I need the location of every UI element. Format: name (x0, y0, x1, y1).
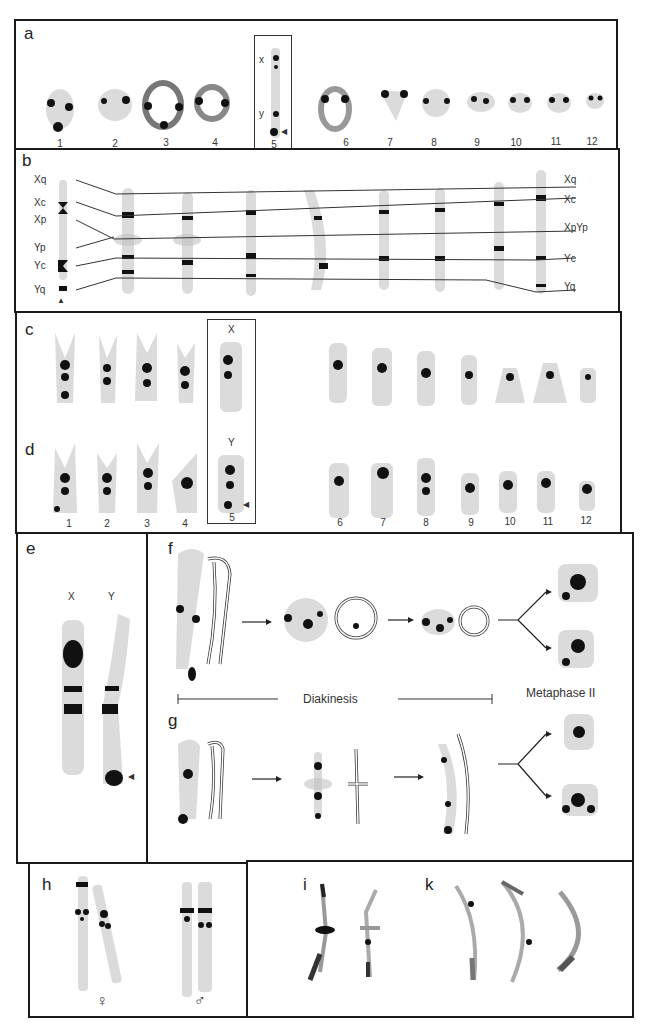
bivalent-ring-2 (98, 89, 132, 121)
chromosome-number-5: 5 (222, 512, 242, 523)
chromosome-number-8: 8 (424, 137, 444, 148)
xy-bivalent-inset-a: x y ◀ 5 (254, 35, 292, 152)
chromosome-number-3: 3 (137, 518, 157, 529)
xy-inset-cd: X Y ◀ 5 (207, 319, 256, 524)
bivalent-ring-9 (467, 92, 495, 112)
chromosome-number-11: 11 (546, 136, 566, 147)
panel-g-sequence (178, 714, 598, 834)
diakinesis-label: Diakinesis (303, 692, 358, 706)
pachytene-chromosomes (248, 862, 636, 1020)
inset-y-label: y (259, 108, 264, 119)
right-label-xpyp: XpYp (564, 222, 588, 233)
chromosome-number-8: 8 (416, 517, 436, 528)
arrowhead-icon: ▲ (57, 296, 65, 305)
left-label-xq: Xq (34, 174, 46, 185)
chromosome-number-1: 1 (59, 518, 79, 529)
panel-a-chromosome-rings (16, 21, 620, 152)
chromosome-number-4: 4 (205, 137, 225, 148)
right-label-xc: Xc (564, 194, 576, 205)
xy-pachytene-pair (18, 534, 150, 866)
panel-b: b (14, 148, 620, 313)
metaphase-chromosomes-d (53, 443, 595, 518)
chromosome-number-4: 4 (175, 518, 195, 529)
bivalent-ring-8 (422, 89, 450, 117)
panel-f-sequence (176, 549, 598, 681)
arrowhead-icon: ◀ (281, 127, 287, 136)
right-label-yc: Yc (564, 253, 576, 264)
chromosome-number-9: 9 (461, 517, 481, 528)
panel-fg: f g (146, 532, 634, 864)
bivalent-ring-4 (195, 87, 229, 119)
right-label-yq: Yq (564, 281, 575, 292)
panel-ik: i k (246, 860, 634, 1018)
chromosome-number-10: 10 (506, 137, 526, 148)
chromosome-number-12: 12 (576, 515, 596, 526)
chromosome-number-2: 2 (97, 518, 117, 529)
bivalent-ring-1 (46, 89, 74, 132)
inset-x-label: x (259, 54, 264, 65)
sex-chromosome-comparison (30, 864, 250, 1020)
chromosome-number-7: 7 (373, 517, 393, 528)
bivalent-ring-12 (586, 93, 604, 109)
left-label-yc: Yc (34, 260, 46, 271)
panel-cd: c d (15, 311, 622, 534)
left-label-yq: Yq (34, 284, 45, 295)
metaphase-chromosomes-c (55, 333, 596, 406)
chromosome-number-6: 6 (336, 137, 356, 148)
chromosome-number-10: 10 (500, 516, 520, 527)
chromosome-number-12: 12 (582, 136, 602, 147)
metaphase-ii-label: Metaphase II (526, 686, 595, 700)
left-label-yp: Yp (34, 242, 46, 253)
male-symbol: ♂ (194, 992, 206, 1010)
bivalent-ring-3 (144, 83, 183, 129)
panel-cd-karyotype (17, 313, 624, 536)
right-label-xq: Xq (564, 174, 576, 185)
panel-e: e X Y ◀ (16, 532, 148, 864)
chromosome-number-7: 7 (380, 137, 400, 148)
chromosome-number-3: 3 (156, 137, 176, 148)
meiosis-progression-diagram (148, 534, 636, 866)
panel-b-xy-alignment (16, 150, 622, 315)
arrowhead-icon: ◀ (243, 500, 249, 509)
inset-x-label: X (228, 324, 235, 335)
bivalent-ring-6 (321, 89, 349, 129)
bivalent-ring-10 (508, 93, 532, 113)
bivalent-ring-7 (381, 90, 408, 121)
arrowhead-icon: ◀ (128, 772, 134, 781)
inset-y-label: Y (228, 437, 235, 448)
panel-h: h ♀ ♂ (28, 862, 248, 1018)
chromosome-number-9: 9 (467, 137, 487, 148)
panel-k-chromosomes (456, 882, 579, 982)
chromosome-number-6: 6 (330, 517, 350, 528)
panel-i-chromosomes (310, 884, 380, 980)
female-symbol: ♀ (96, 992, 108, 1010)
left-label-xp: Xp (34, 214, 46, 225)
bivalent-ring-11 (547, 93, 571, 113)
panel-a: a (14, 19, 618, 150)
chromosome-number-11: 11 (538, 516, 558, 527)
left-label-xc: Xc (34, 197, 46, 208)
